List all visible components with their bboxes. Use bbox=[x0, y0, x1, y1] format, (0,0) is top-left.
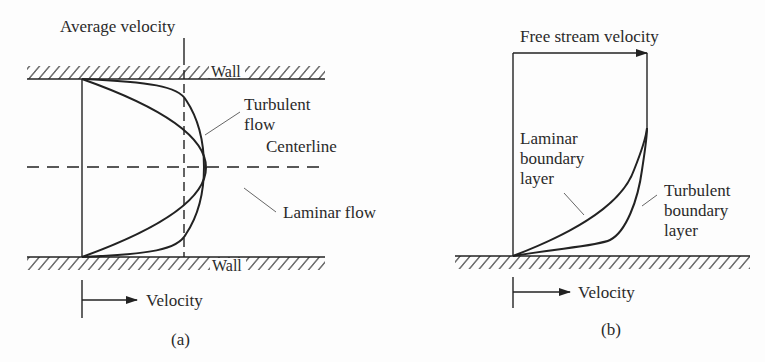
turbulent-flow-label-line1: Turbulent bbox=[244, 95, 311, 114]
turbulent-bl-label-line2: boundary bbox=[664, 201, 729, 220]
velocity-profile-figure: Average velocity Wall Wall Turbulent bbox=[0, 0, 765, 362]
laminar-leader-line bbox=[244, 188, 276, 212]
figure-a-pipe-flow: Average velocity Wall Wall Turbulent bbox=[27, 17, 377, 349]
wall-bottom-label: Wall bbox=[212, 257, 242, 274]
centerline-label: Centerline bbox=[266, 137, 337, 156]
bottom-wall bbox=[27, 257, 325, 272]
top-wall bbox=[27, 64, 325, 79]
laminar-bl-label-line1: Laminar bbox=[520, 129, 578, 148]
turbulent-bl-label-line1: Turbulent bbox=[664, 181, 731, 200]
figure-b-boundary-layer: Free stream velocity Laminar boundary la… bbox=[455, 27, 750, 339]
wall-top-label: Wall bbox=[211, 63, 241, 80]
flat-plate-wall bbox=[455, 256, 750, 269]
figure-b-caption: (b) bbox=[601, 320, 621, 339]
turbulent-bl-leader-line bbox=[642, 195, 657, 206]
laminar-flow-label: Laminar flow bbox=[283, 203, 377, 222]
laminar-bl-label-line2: boundary bbox=[520, 149, 585, 168]
figure-a-caption: (a) bbox=[171, 330, 190, 349]
laminar-bl-label-line3: layer bbox=[520, 169, 554, 188]
turbulent-bl-label-line3: layer bbox=[664, 221, 698, 240]
turbulent-leader-line bbox=[205, 112, 240, 135]
free-stream-velocity-label: Free stream velocity bbox=[520, 27, 659, 46]
average-velocity-label: Average velocity bbox=[60, 17, 176, 36]
laminar-bl-leader-line bbox=[564, 193, 584, 215]
velocity-axis-label-b: Velocity bbox=[578, 283, 635, 302]
turbulent-flow-label-line2: flow bbox=[244, 115, 276, 134]
velocity-axis-label: Velocity bbox=[146, 291, 203, 310]
